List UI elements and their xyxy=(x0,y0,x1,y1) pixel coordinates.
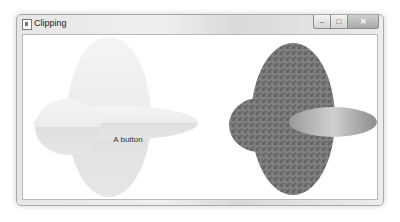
close-icon: ✕ xyxy=(360,17,367,26)
maximize-icon: □ xyxy=(337,17,342,26)
maximize-button[interactable]: □ xyxy=(331,15,348,29)
app-window-icon[interactable] xyxy=(22,19,32,30)
close-button[interactable]: ✕ xyxy=(348,15,379,29)
clip-canvas xyxy=(23,35,377,199)
client-area: A button xyxy=(22,34,378,200)
title-bar[interactable]: Clipping – □ ✕ xyxy=(17,15,383,33)
window-title: Clipping xyxy=(34,18,67,28)
clipped-button[interactable] xyxy=(34,37,198,197)
clipped-image xyxy=(229,43,377,195)
window-controls: – □ ✕ xyxy=(313,15,379,29)
minimize-icon: – xyxy=(320,17,324,26)
button-label: A button xyxy=(98,135,158,144)
minimize-button[interactable]: – xyxy=(313,15,331,29)
